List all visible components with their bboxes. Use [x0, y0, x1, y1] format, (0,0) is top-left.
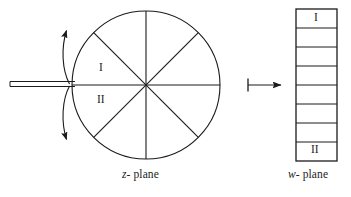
cell-label-I-w-plane: I: [314, 11, 318, 23]
curved-arrow-upper: [63, 31, 69, 85]
conformal-mapping-figure: I II I II z- plane w- plane: [0, 0, 351, 197]
curved-arrow-lower: [63, 86, 69, 140]
w-plane-group: [296, 9, 337, 161]
caption-w-plane: w- plane: [288, 168, 328, 180]
z-plane-group: [72, 11, 220, 159]
caption-w-variable: w: [288, 168, 296, 180]
caption-z-plane: z- plane: [122, 168, 159, 180]
caption-z-suffix: - plane: [127, 168, 159, 180]
slit-group: [10, 82, 75, 87]
cut-edges-curved-arrow: [63, 31, 69, 140]
maps-to-arrow: [248, 79, 281, 92]
sector-label-II-z-plane: II: [97, 93, 105, 105]
sector-label-I-z-plane: I: [99, 61, 103, 73]
caption-w-suffix: - plane: [296, 168, 328, 180]
cell-label-II-w-plane: II: [311, 143, 319, 155]
